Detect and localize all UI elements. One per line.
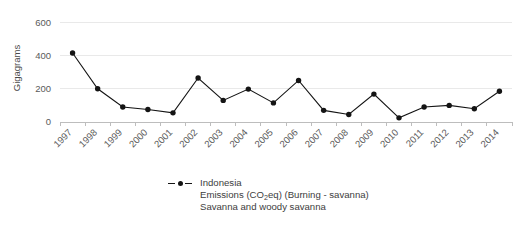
y-axis-tick-label: 400: [35, 50, 51, 61]
x-axis-tick-label: 2012: [428, 127, 451, 150]
legend-marker-icon: [168, 178, 192, 190]
x-axis-tick-label: 2004: [227, 127, 250, 150]
legend-emissions-pre: Emissions (CO: [200, 189, 264, 200]
legend-line-landcover: Savanna and woody savanna: [200, 201, 369, 213]
series-data-point: [296, 78, 301, 83]
series-data-point: [271, 100, 276, 105]
legend-dash-left: [168, 183, 175, 184]
legend-emissions-post: eq) (Burning - savanna): [268, 189, 369, 200]
x-axis-tick-label: 2008: [327, 127, 350, 150]
series-data-point: [421, 104, 426, 109]
x-axis-tick-label: 2010: [378, 127, 401, 150]
legend-line-emissions: Emissions (CO2eq) (Burning - savanna): [200, 189, 369, 202]
series-data-point: [120, 104, 125, 109]
x-axis-tick-label: 2002: [177, 127, 200, 150]
series-data-point: [70, 50, 75, 55]
series-data-point: [497, 89, 502, 94]
y-axis-tick-group: 0200400600: [35, 17, 51, 128]
line-chart: 0200400600 19971998199920002001200220032…: [0, 0, 531, 227]
series-data-point: [396, 115, 401, 120]
y-axis-tick-label: 0: [46, 116, 51, 127]
series-data-point: [145, 107, 150, 112]
x-axis-tick-label: 2005: [252, 127, 275, 150]
x-axis-tick-label: 2001: [152, 127, 175, 150]
x-axis-tick-label: 2006: [277, 127, 300, 150]
x-axis-tick-label: 2009: [353, 127, 376, 150]
x-axis-tick-group: [60, 122, 512, 126]
x-axis-tick-label: 2003: [202, 127, 225, 150]
x-axis-tick-label: 2000: [127, 127, 150, 150]
series-data-point: [195, 75, 200, 80]
series-data-point: [371, 91, 376, 96]
legend-dash-right: [185, 183, 192, 184]
x-axis-tick-label: 2011: [403, 127, 425, 149]
x-axis-label-group: 1997199819992000200120022003200420052006…: [51, 127, 501, 150]
series-data-point: [95, 86, 100, 91]
series-data-point: [221, 98, 226, 103]
y-axis-tick-label: 200: [35, 83, 51, 94]
legend-line-series-name: Indonesia: [200, 177, 369, 189]
series-group: [70, 50, 502, 120]
series-data-point: [447, 103, 452, 108]
legend-emissions-subscript: 2: [264, 193, 268, 202]
series-data-point: [346, 112, 351, 117]
x-axis-tick-label: 2013: [453, 127, 476, 150]
x-axis-tick-label: 1999: [101, 127, 124, 150]
x-axis-tick-label: 1997: [51, 127, 74, 150]
x-axis-tick-label: 2014: [478, 127, 501, 150]
legend-text-block: Indonesia Emissions (CO2eq) (Burning - s…: [200, 177, 369, 213]
chart-legend: Indonesia Emissions (CO2eq) (Burning - s…: [168, 177, 369, 213]
y-axis-tick-label: 600: [35, 17, 51, 28]
legend-dot: [178, 181, 183, 186]
series-data-point: [321, 108, 326, 113]
series-data-point: [246, 86, 251, 91]
x-axis-tick-label: 2007: [302, 127, 325, 150]
series-data-point: [472, 106, 477, 111]
x-axis-tick-label: 1998: [76, 127, 99, 150]
y-axis-title: Gigagrams: [11, 45, 22, 92]
series-data-point: [170, 110, 175, 115]
series-line: [73, 53, 500, 118]
